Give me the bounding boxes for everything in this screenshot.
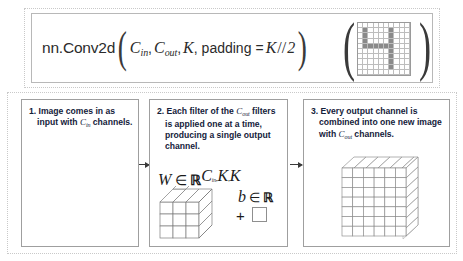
formula-paren-close: ) (298, 30, 307, 65)
panel-3-tail: channels. (352, 129, 394, 139)
weights-cube-3d (158, 186, 226, 242)
panel-1-number: 1. (29, 106, 36, 116)
arg-cin: Cin (130, 39, 148, 58)
weight-shape-superscript: Cin,K,K (201, 174, 240, 183)
arrow-panel2-to-panel3 (290, 164, 302, 165)
plus-operator: + (236, 207, 245, 224)
floor-div-operator: // (276, 39, 287, 57)
padding-divisor: 2 (287, 39, 295, 57)
panel-2-text: 2. Each filter of the Cout filters is ap… (157, 106, 282, 153)
image-paren-open: ( (343, 13, 355, 79)
conv2d-formula: nn.Conv2d ( Cin , Cout , K , padding = K… (42, 30, 310, 65)
panel-step-2: 2. Each filter of the Cout filters is ap… (149, 99, 288, 247)
figure-root: nn.Conv2d ( Cin , Cout , K , padding = K… (0, 0, 463, 261)
digit-four-pixel-image (357, 22, 411, 76)
function-name: nn.Conv2d (42, 39, 115, 57)
padding-kernel: K (266, 39, 277, 57)
panel-2-math: Cout (236, 106, 249, 116)
formula-paren-open: ( (118, 30, 127, 65)
panel-2-number: 2. (157, 106, 164, 116)
panel-1-tail: channels. (90, 117, 132, 127)
panel-3-number: 3. (311, 106, 318, 116)
panel-step-3: 3. Every output channel is combined into… (303, 99, 450, 247)
panel-3-text: 3. Every output channel is combined into… (311, 106, 444, 141)
arg-kernel: K (183, 39, 194, 57)
panel-1-math: Cin (80, 117, 90, 127)
arg-padding-label: padding (200, 40, 254, 56)
pixel-cell (405, 70, 410, 75)
panel-3-math: Cout (339, 129, 352, 139)
panel-step-1: 1. Image comes in as input with Cin chan… (21, 99, 139, 247)
equals-sign: = (253, 40, 265, 56)
panel-2-body: Each filter of the (167, 106, 237, 116)
image-paren-close: ) (419, 13, 431, 79)
arg-cout: Cout (154, 39, 177, 58)
bias-notation: b ∈ ℝ (238, 188, 273, 206)
bias-symbol-b: b (238, 188, 246, 205)
panel-1-text: 1. Image comes in as input with Cin chan… (29, 106, 133, 130)
real-numbers-symbol-b: ℝ (263, 191, 273, 205)
element-of-symbol-b: ∈ (249, 191, 260, 205)
arrow-panel1-to-panel2 (139, 164, 149, 165)
output-channel-stack-3d (340, 156, 422, 242)
bias-scalar-box (252, 207, 267, 222)
